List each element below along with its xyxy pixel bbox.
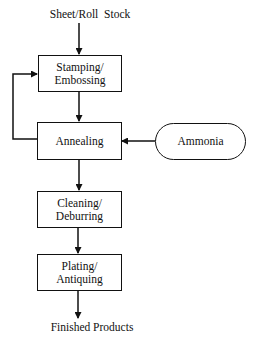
node-label-line2: Antiquing	[56, 273, 103, 286]
node-plating-antiquing: Plating/ Antiquing	[37, 254, 122, 291]
node-cleaning-deburring: Cleaning/ Deburring	[37, 191, 122, 228]
output-label: Finished Products	[48, 321, 136, 333]
node-label: Ammonia	[178, 135, 224, 148]
arrow-feedback-loop	[13, 74, 37, 139]
node-annealing: Annealing	[37, 122, 122, 160]
node-label-line2: Embossing	[54, 74, 105, 87]
node-label-line1: Plating/	[56, 260, 103, 273]
node-stamping-embossing: Stamping/ Embossing	[38, 55, 122, 92]
input-label: Sheet/Roll Stock	[48, 8, 132, 20]
node-label-line1: Stamping/	[54, 61, 105, 74]
node-label: Annealing	[56, 135, 104, 148]
node-label-line1: Cleaning/	[56, 197, 103, 210]
node-ammonia: Ammonia	[155, 123, 246, 160]
node-label-line2: Deburring	[56, 210, 103, 223]
